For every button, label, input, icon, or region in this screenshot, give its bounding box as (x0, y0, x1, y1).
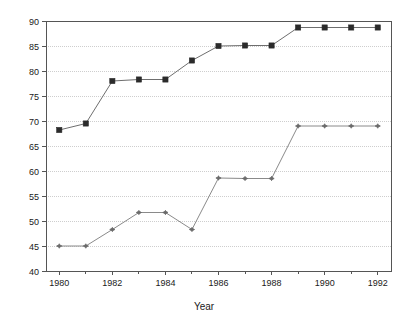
data-point-marker (110, 78, 115, 83)
series-line (59, 28, 377, 131)
series-line (59, 126, 377, 246)
y-tick-label: 40 (29, 267, 39, 277)
data-point-marker (296, 25, 301, 30)
y-tick-label: 45 (29, 242, 39, 252)
y-axis-tick-labels: 4045505560657075808590 (29, 17, 39, 277)
y-tick-label: 90 (29, 17, 39, 27)
data-point-marker (375, 25, 380, 30)
x-axis-ticks (59, 271, 377, 275)
x-tick-label: 1990 (315, 278, 335, 288)
y-tick-label: 65 (29, 142, 39, 152)
data-point-marker (269, 43, 274, 48)
y-tick-label: 85 (29, 42, 39, 52)
x-tick-label: 1984 (155, 278, 175, 288)
data-series (57, 25, 381, 249)
y-tick-label: 60 (29, 167, 39, 177)
y-tick-label: 55 (29, 192, 39, 202)
gridlines (46, 21, 391, 246)
data-point-marker (189, 58, 194, 63)
y-tick-label: 80 (29, 67, 39, 77)
data-point-marker (242, 43, 247, 48)
data-point-marker (57, 127, 62, 132)
data-point-marker (216, 43, 221, 48)
data-point-marker (322, 124, 327, 129)
x-tick-label: 1986 (208, 278, 228, 288)
x-tick-label: 1980 (49, 278, 69, 288)
x-axis-tick-labels: 1980198219841986198819901992 (49, 278, 387, 288)
data-point-marker (242, 176, 247, 181)
y-tick-label: 50 (29, 217, 39, 227)
line-chart: 4045505560657075808590 19801982198419861… (0, 0, 408, 317)
data-point-marker (136, 77, 141, 82)
data-point-marker (57, 244, 62, 249)
data-point-marker (375, 124, 380, 129)
series-lower (57, 124, 381, 249)
data-point-marker (269, 176, 274, 181)
y-tick-label: 70 (29, 117, 39, 127)
data-point-marker (216, 176, 221, 181)
data-point-marker (349, 124, 354, 129)
data-point-marker (296, 124, 301, 129)
y-axis-ticks (42, 21, 46, 271)
chart-canvas: 4045505560657075808590 19801982198419861… (0, 0, 408, 317)
y-tick-label: 75 (29, 92, 39, 102)
data-point-marker (163, 77, 168, 82)
data-point-marker (322, 25, 327, 30)
data-point-marker (349, 25, 354, 30)
x-tick-label: 1982 (102, 278, 122, 288)
x-tick-label: 1988 (262, 278, 282, 288)
series-upper (57, 25, 381, 133)
x-axis-title: Year (194, 301, 215, 312)
x-tick-label: 1992 (368, 278, 388, 288)
data-point-marker (83, 121, 88, 126)
